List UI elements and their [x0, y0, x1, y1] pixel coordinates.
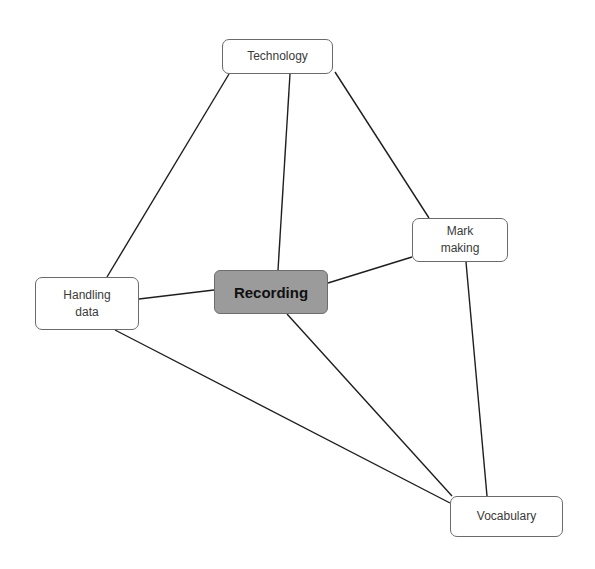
edge-mark-making-vocabulary [466, 262, 487, 496]
node-technology: Technology [222, 39, 333, 74]
edge-technology-recording [278, 74, 290, 270]
node-handling-data-label: Handling data [63, 287, 110, 321]
edge-handling-data-vocabulary [115, 330, 450, 503]
node-recording-label: Recording [234, 284, 308, 301]
node-handling-data: Handling data [35, 277, 139, 330]
node-technology-label: Technology [247, 48, 308, 65]
edge-technology-mark-making [335, 72, 429, 218]
node-mark-making: Mark making [412, 218, 508, 262]
node-vocabulary: Vocabulary [450, 496, 563, 537]
edge-recording-vocabulary [287, 314, 452, 496]
edge-handling-data-recording [139, 290, 214, 299]
node-vocabulary-label: Vocabulary [477, 508, 536, 525]
node-recording: Recording [214, 270, 328, 314]
node-mark-making-label: Mark making [441, 223, 480, 257]
edge-technology-handling-data [107, 74, 229, 277]
edge-recording-mark-making [328, 257, 412, 283]
